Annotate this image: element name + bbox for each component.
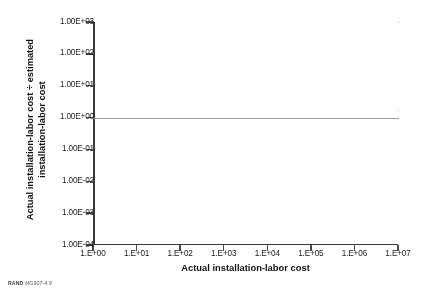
y-tick-label-7: 1.00E-04 [62, 241, 94, 249]
y-tick-label-0: 1.00E+03 [60, 18, 94, 26]
x-tick-label-3: 1.E+03 [211, 250, 236, 258]
x-axis-title: Actual installation-labor cost [93, 262, 398, 273]
x-tick-label-0: 1.E+00 [80, 250, 105, 258]
figure-container: 1.00E+031.00E+021.00E+011.00E+001.00E-01… [0, 0, 426, 300]
y-axis-title-line2: installation-labor cost [37, 81, 47, 178]
y-axis-title-line1: Actual installation-labor cost ÷ estimat… [25, 39, 35, 220]
x-tick-label-4: 1.E+04 [255, 250, 280, 258]
y-tick-label-3: 1.00E+00 [60, 113, 94, 121]
y-tick-label-4: 1.00E-01 [62, 145, 94, 153]
plot-area [93, 22, 398, 245]
y-tick-label-1: 1.00E+02 [60, 49, 94, 57]
source-note: RAND MG907-4.9 [8, 280, 52, 286]
x-tick-label-2: 1.E+02 [167, 250, 192, 258]
x-tick-label-7: 1.E+07 [385, 250, 410, 258]
x-tick-label-6: 1.E+06 [342, 250, 367, 258]
source-note-id: MG907-4.9 [25, 280, 52, 286]
source-note-brand: RAND [8, 280, 23, 286]
x-tick-label-5: 1.E+05 [298, 250, 323, 258]
y-tick-label-5: 1.00E-02 [62, 177, 94, 185]
x-tick-label-1: 1.E+01 [124, 250, 149, 258]
gridline-y-1 [93, 118, 399, 119]
y-axis-title: Actual installation-labor cost ÷ estimat… [25, 14, 48, 246]
y-tick-label-6: 1.00E-03 [62, 209, 94, 217]
y-tick-label-2: 1.00E+01 [60, 81, 94, 89]
